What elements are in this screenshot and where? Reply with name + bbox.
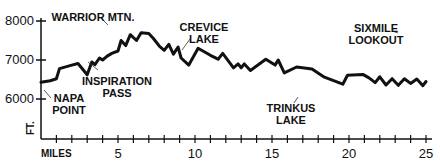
elevation-profile-chart: 8000 7000 6000 5 10 15 20 25 MILES FT. N…	[0, 0, 440, 166]
annotation-crevice-lake-line1: CREVICE	[180, 21, 229, 33]
annotation-warrior-mtn: WARRIOR MTN.	[51, 11, 134, 23]
x-tick-label-5: 5	[114, 146, 121, 161]
annotation-crevice-lake-line2: LAKE	[189, 33, 219, 45]
annotation-sixmile-lookout-line2: LOOKOUT	[349, 34, 404, 46]
annotation-sixmile-lookout-line1: SIXMILE	[354, 22, 398, 34]
annotation-napa-point-line2: POINT	[52, 104, 86, 116]
y-tick-label-7000: 7000	[5, 52, 34, 67]
x-tick-label-25: 25	[419, 146, 433, 161]
x-tick-label-10: 10	[188, 146, 202, 161]
y-tick-label-6000: 6000	[5, 91, 34, 106]
annotation-inspiration-pass-line1: INSPIRATION	[82, 75, 152, 87]
x-tick-label-15: 15	[265, 146, 279, 161]
y-axis-unit-label: FT.	[25, 121, 36, 135]
x-axis-unit-label: MILES	[41, 148, 72, 159]
annotation-napa-point-line1: NAPA	[54, 92, 84, 104]
x-tick-label-20: 20	[342, 146, 356, 161]
annotation-trinkus-lake-line1: TRINKUS	[267, 102, 316, 114]
annotation-inspiration-pass-line2: PASS	[102, 87, 131, 99]
y-tick-label-8000: 8000	[5, 13, 34, 28]
annotation-trinkus-lake-line2: LAKE	[276, 114, 306, 126]
